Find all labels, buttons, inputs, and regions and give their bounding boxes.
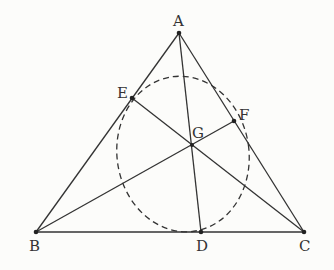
point-f: [232, 119, 237, 124]
point-b: [34, 230, 39, 235]
label-a: A: [172, 12, 184, 30]
label-c: C: [299, 237, 310, 255]
geometry-diagram: A B C D E F G: [0, 0, 334, 270]
point-c: [302, 230, 307, 235]
point-g: [190, 143, 194, 147]
point-a: [177, 31, 182, 36]
inscribed-ellipse: [107, 68, 259, 241]
cevian-ce: [132, 98, 304, 232]
point-e: [130, 96, 135, 101]
label-d: D: [196, 237, 208, 255]
diagram-canvas: A B C D E F G: [0, 0, 334, 270]
label-e: E: [117, 84, 128, 102]
point-d: [199, 230, 204, 235]
cevian-bf: [36, 121, 234, 232]
label-f: F: [239, 106, 249, 124]
label-b: B: [29, 237, 40, 255]
side-ab: [36, 33, 179, 232]
label-g: G: [192, 124, 204, 142]
